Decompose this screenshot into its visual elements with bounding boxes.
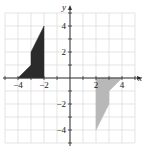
coordinate-plane: −4−22442−2−4 x y [0,0,144,148]
y-axis-arrow-icon [68,5,72,10]
x-axis-label: x [137,73,142,83]
x-tick-label: 4 [120,80,125,90]
x-tick-label: 2 [94,80,99,90]
x-tick-label: −2 [39,80,49,90]
y-tick-label: −2 [56,99,66,109]
y-axis-label: y [61,2,66,12]
y-tick-label: 2 [62,47,67,57]
y-tick-label: −4 [56,125,66,135]
x-tick-label: −4 [13,80,23,90]
y-tick-label: 4 [62,21,67,31]
